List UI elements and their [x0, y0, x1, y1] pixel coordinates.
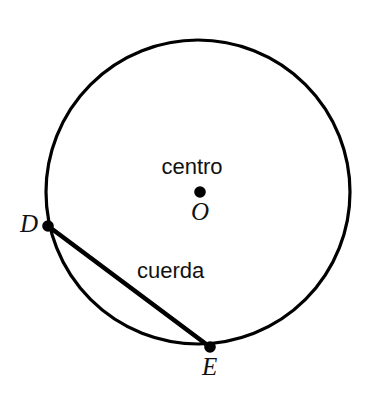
point-d-dot: [42, 220, 54, 232]
center-point-label: O: [191, 199, 209, 224]
point-e-label: E: [202, 354, 217, 379]
center-word-text: centro: [161, 156, 222, 178]
circle-chord-diagram: centro O cuerda D E: [0, 0, 382, 411]
point-d-label: D: [20, 211, 38, 236]
center-point-dot: [194, 186, 206, 198]
point-e-dot: [204, 341, 216, 353]
chord-word-label: cuerda: [137, 260, 204, 282]
center-word-label: centro: [0, 156, 382, 178]
